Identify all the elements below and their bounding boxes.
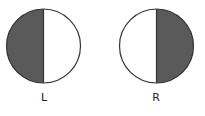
label-left: L	[34, 92, 54, 104]
label-right: R	[146, 92, 166, 104]
shaded-half-left	[7, 9, 44, 83]
diagram-canvas	[0, 0, 205, 116]
circle-right	[120, 9, 194, 83]
shaded-half-right	[157, 9, 194, 83]
circle-left	[7, 9, 81, 83]
